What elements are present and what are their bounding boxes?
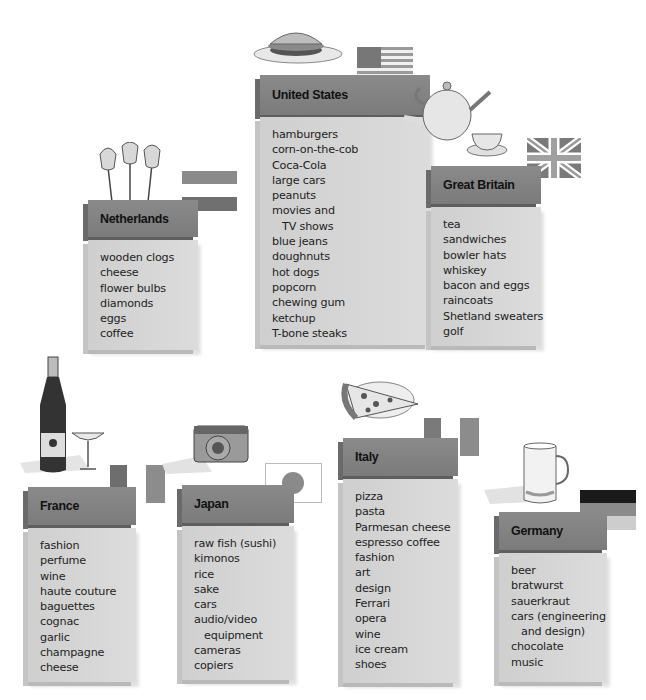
list-item: cars (engineering <box>511 609 606 624</box>
country-card-france: France fashion perfume wine haute coutur… <box>28 487 136 682</box>
list-item: audio/video <box>194 612 276 627</box>
list-item: bowler hats <box>443 248 543 263</box>
list-item: kimonos <box>194 551 276 566</box>
card-header: Great Britain <box>431 166 541 204</box>
list-item: Coca-Cola <box>272 158 358 173</box>
country-card-netherlands: Netherlands wooden clogs cheese flower b… <box>88 200 198 350</box>
list-item: cheese <box>100 265 174 280</box>
list-item: shoes <box>355 657 450 672</box>
list-item: corn-on-the-cob <box>272 142 358 157</box>
list-item: cheese <box>40 660 116 675</box>
teapot-icon <box>402 70 512 160</box>
item-list: hamburgers corn-on-the-cob Coca-Cola lar… <box>272 127 358 341</box>
list-item: cameras <box>194 643 276 658</box>
country-card-germany: Germany beer bratwurst sauerkraut cars (… <box>499 512 607 682</box>
list-item: T-bone steaks <box>272 326 358 341</box>
list-item: garlic <box>40 630 116 645</box>
list-item: espresso coffee <box>355 535 450 550</box>
item-list: raw fish (sushi) kimonos rice sake cars … <box>194 536 276 674</box>
card-header: France <box>28 487 136 525</box>
country-name: France <box>40 498 79 513</box>
list-item: Shetland sweaters <box>443 309 543 324</box>
card-body: raw fish (sushi) kimonos rice sake cars … <box>182 526 294 680</box>
card-header: Japan <box>182 485 294 523</box>
list-item: diamonds <box>100 296 174 311</box>
list-item: copiers <box>194 658 276 673</box>
card-header: Germany <box>499 512 607 550</box>
card-body: fashion perfume wine haute couture bague… <box>28 528 136 682</box>
list-item: baguettes <box>40 599 116 614</box>
card-body: pizza pasta Parmesan cheese espresso cof… <box>343 479 458 683</box>
list-item: peanuts <box>272 188 358 203</box>
list-item: rice <box>194 567 276 582</box>
item-list: beer bratwurst sauerkraut cars (engineer… <box>511 563 606 670</box>
card-body: beer bratwurst sauerkraut cars (engineer… <box>499 553 607 682</box>
card-body: tea sandwiches bowler hats whiskey bacon… <box>431 207 541 346</box>
list-item: raw fish (sushi) <box>194 536 276 551</box>
list-item: Ferrari <box>355 596 450 611</box>
list-item: pizza <box>355 489 450 504</box>
card-body: wooden clogs cheese flower bulbs diamond… <box>88 240 198 350</box>
list-item: design <box>355 581 450 596</box>
item-list: pizza pasta Parmesan cheese espresso cof… <box>355 489 450 673</box>
list-item: hamburgers <box>272 127 358 142</box>
list-item: bratwurst <box>511 578 606 593</box>
list-item: wooden clogs <box>100 250 174 265</box>
item-list: fashion perfume wine haute couture bague… <box>40 538 116 676</box>
list-item: ketchup <box>272 311 358 326</box>
list-item: fashion <box>355 550 450 565</box>
country-name: Germany <box>511 523 563 538</box>
list-item: and design) <box>511 624 606 639</box>
country-card-italy: Italy pizza pasta Parmesan cheese espres… <box>343 438 458 683</box>
country-name: Great Britain <box>443 177 515 192</box>
list-item: cars <box>194 597 276 612</box>
country-card-japan: Japan raw fish (sushi) kimonos rice sake… <box>182 485 294 680</box>
list-item: sake <box>194 582 276 597</box>
list-item: pasta <box>355 504 450 519</box>
list-item: TV shows <box>272 219 358 234</box>
list-item: cognac <box>40 614 116 629</box>
list-item: champagne <box>40 645 116 660</box>
list-item: bacon and eggs <box>443 278 543 293</box>
list-item: chewing gum <box>272 295 358 310</box>
list-item: raincoats <box>443 293 543 308</box>
list-item: hot dogs <box>272 265 358 280</box>
list-item: wine <box>355 627 450 642</box>
list-item: wine <box>40 569 116 584</box>
champagne-bottle-icon <box>20 355 110 475</box>
list-item: music <box>511 655 606 670</box>
list-item: tea <box>443 217 543 232</box>
list-item: flower bulbs <box>100 281 174 296</box>
list-item: equipment <box>194 628 276 643</box>
list-item: fashion <box>40 538 116 553</box>
list-item: doughnuts <box>272 249 358 264</box>
list-item: movies and <box>272 203 358 218</box>
country-name: Japan <box>194 496 229 511</box>
list-item: art <box>355 565 450 580</box>
tulips-icon <box>96 142 166 202</box>
list-item: chocolate <box>511 639 606 654</box>
list-item: large cars <box>272 173 358 188</box>
pizza-slice-icon <box>340 374 424 424</box>
list-item: Parmesan cheese <box>355 520 450 535</box>
camera-icon <box>162 420 252 476</box>
list-item: whiskey <box>443 263 543 278</box>
beer-stein-icon <box>484 440 574 506</box>
country-name: Italy <box>355 449 378 464</box>
list-item: eggs <box>100 311 174 326</box>
list-item: sauerkraut <box>511 594 606 609</box>
list-item: popcorn <box>272 280 358 295</box>
card-header: Italy <box>343 438 458 476</box>
list-item: perfume <box>40 553 116 568</box>
list-item: haute couture <box>40 584 116 599</box>
list-item: coffee <box>100 326 174 341</box>
list-item: ice cream <box>355 642 450 657</box>
item-list: tea sandwiches bowler hats whiskey bacon… <box>443 217 543 339</box>
country-name: Netherlands <box>100 211 169 226</box>
card-header: Netherlands <box>88 200 198 237</box>
country-card-great-britain: Great Britain tea sandwiches bowler hats… <box>431 166 541 346</box>
item-list: wooden clogs cheese flower bulbs diamond… <box>100 250 174 342</box>
list-item: beer <box>511 563 606 578</box>
list-item: golf <box>443 324 543 339</box>
list-item: opera <box>355 611 450 626</box>
